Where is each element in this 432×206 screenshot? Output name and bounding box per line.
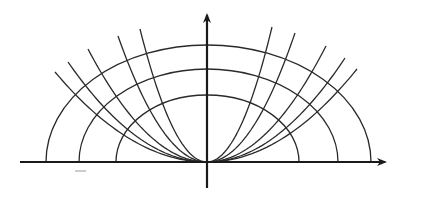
parabola-left-1 — [55, 72, 207, 162]
orthogonal-trajectories-figure — [0, 0, 432, 206]
parabola-left-2 — [68, 62, 207, 162]
parabola-right-4 — [207, 58, 345, 162]
diagram-canvas — [0, 0, 432, 206]
parabola-right-2 — [207, 33, 295, 162]
parabola-left-4 — [118, 36, 207, 162]
